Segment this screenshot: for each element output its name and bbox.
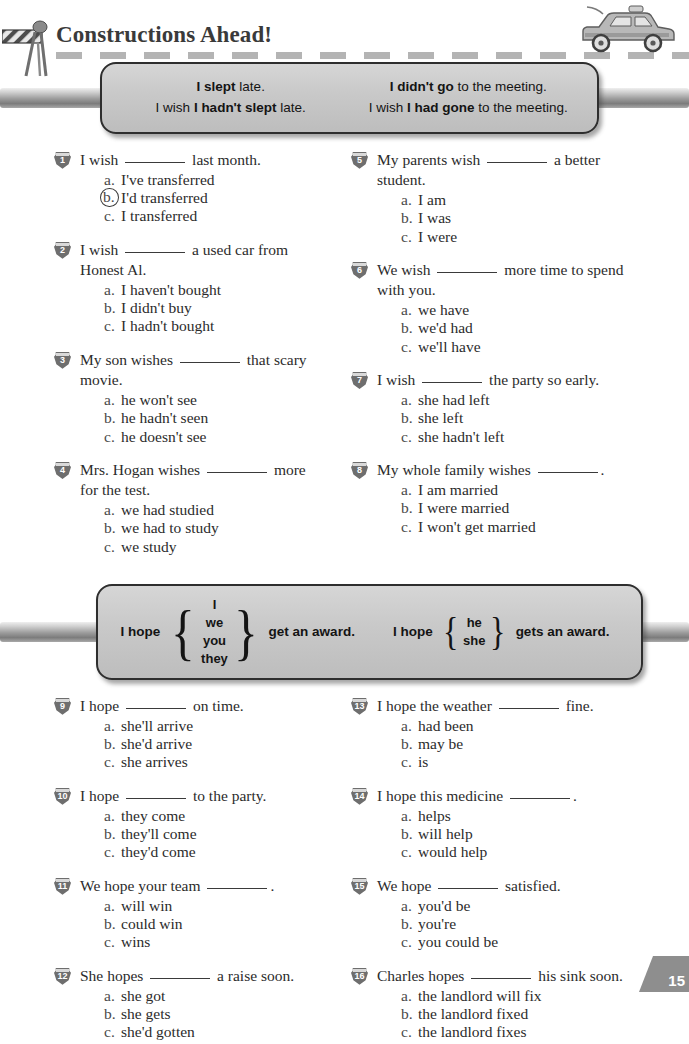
choice-list: a.she gotb.she getsc.she'd gotten (80, 987, 339, 1042)
choice-text: he won't see (121, 391, 197, 408)
choice-text: may be (418, 735, 463, 752)
choice-text: I am (418, 191, 446, 208)
answer-blank[interactable] (207, 472, 267, 473)
choice-list: a.he won't seeb.he hadn't seenc.he doesn… (80, 391, 339, 446)
choice-letter: b. (104, 299, 116, 317)
item-number: 10 (57, 791, 67, 801)
choice-option[interactable]: a.had been (401, 717, 685, 735)
choice-letter: b. (104, 825, 116, 843)
item-number-shield-icon: 10 (54, 788, 71, 805)
choice-option[interactable]: b.she left (401, 409, 685, 427)
choice-option[interactable]: b.will help (401, 825, 685, 843)
answer-blank[interactable] (438, 888, 498, 889)
stem-text-before-blank: I wish (377, 371, 419, 388)
subject-word: we (201, 614, 228, 632)
choice-option[interactable]: a.I've transferred (104, 171, 339, 189)
choice-option[interactable]: b.the landlord fixed (401, 1005, 685, 1023)
choice-option[interactable]: b.she gets (104, 1005, 339, 1023)
choice-option[interactable]: a.she had left (401, 391, 685, 409)
choice-letter: a. (401, 717, 412, 735)
exercise-item: 5My parents wish a betterstudent.a.I amb… (351, 150, 685, 246)
answer-blank[interactable] (150, 978, 210, 979)
choice-option[interactable]: a.helps (401, 807, 685, 825)
choice-letter: c. (104, 933, 115, 951)
answer-blank[interactable] (538, 472, 598, 473)
choice-text: is (418, 753, 428, 770)
choice-option[interactable]: c.I transferred (104, 207, 339, 225)
answer-blank[interactable] (126, 798, 186, 799)
choice-option[interactable]: c.I won't get married (401, 518, 685, 536)
answer-blank[interactable] (422, 382, 482, 383)
stem-text-after-blank: . (601, 461, 605, 478)
choice-option[interactable]: b.I was (401, 209, 685, 227)
exercise-group-wish: 1I wish last month.a.I've transferredb.I… (0, 150, 689, 570)
choice-option[interactable]: c.you could be (401, 933, 685, 951)
stem-text-after-blank: satisfied. (501, 877, 560, 894)
choice-option[interactable]: b.could win (104, 915, 339, 933)
choice-option[interactable]: c.she arrives (104, 753, 339, 771)
choice-option[interactable]: b.we had to study (104, 519, 339, 537)
choice-option[interactable]: c.I hadn't bought (104, 317, 339, 335)
question-stem: My son wishes that scarymovie. (80, 350, 339, 390)
choice-option[interactable]: b.they'll come (104, 825, 339, 843)
choice-option[interactable]: a.you'd be (401, 897, 685, 915)
choice-option[interactable]: b.I didn't buy (104, 299, 339, 317)
choice-list: a.we haveb.we'd hadc.we'll have (377, 301, 685, 356)
item-number-shield-icon: 14 (351, 788, 368, 805)
choice-option[interactable]: a.we had studied (104, 501, 339, 519)
wish-right-l1-bold: I didn't go (390, 79, 454, 94)
choice-option[interactable]: a.she got (104, 987, 339, 1005)
answer-blank[interactable] (125, 252, 185, 253)
choice-list: a.they comeb.they'll comec.they'd come (80, 807, 339, 862)
stem-text-after-blank: fine. (562, 697, 594, 714)
answer-blank[interactable] (126, 708, 186, 709)
choice-option[interactable]: c.we study (104, 538, 339, 556)
item-number-shield-icon: 6 (351, 262, 368, 279)
choice-option[interactable]: c.we'll have (401, 338, 685, 356)
choice-option[interactable]: c.would help (401, 843, 685, 861)
subject-word: I (201, 596, 228, 614)
banner-hope-right: I hope { heshe } gets an award. (370, 614, 634, 650)
answer-blank[interactable] (180, 362, 240, 363)
choice-option[interactable]: c.they'd come (104, 843, 339, 861)
choice-option[interactable]: a.we have (401, 301, 685, 319)
choice-letter: a. (401, 481, 412, 499)
choice-option-selected[interactable]: b.I'd transferred (104, 189, 339, 207)
choice-option[interactable]: b.you're (401, 915, 685, 933)
choice-option[interactable]: c.she'd gotten (104, 1023, 339, 1041)
choice-text: you could be (418, 933, 498, 950)
choice-letter: c. (401, 843, 412, 861)
choice-option[interactable]: b.she'd arrive (104, 735, 339, 753)
answer-blank[interactable] (125, 162, 185, 163)
choice-option[interactable]: c.wins (104, 933, 339, 951)
banner-wish-box: I slept late. I wish I hadn't slept late… (100, 62, 599, 134)
choice-option[interactable]: c.I were (401, 228, 685, 246)
choice-option[interactable]: c.he doesn't see (104, 428, 339, 446)
choice-text: I were (418, 228, 457, 245)
answer-blank[interactable] (487, 162, 547, 163)
item-number-shield-icon: 16 (351, 968, 368, 985)
choice-option[interactable]: a.I am married (401, 481, 685, 499)
choice-option[interactable]: b.we'd had (401, 319, 685, 337)
choice-option[interactable]: a.he won't see (104, 391, 339, 409)
choice-option[interactable]: b.I were married (401, 499, 685, 517)
choice-option[interactable]: c.is (401, 753, 685, 771)
choice-option[interactable]: c.she hadn't left (401, 428, 685, 446)
choice-option[interactable]: b.he hadn't seen (104, 409, 339, 427)
wish-left-l1-bold: I slept (197, 79, 236, 94)
choice-option[interactable]: a.they come (104, 807, 339, 825)
choice-option[interactable]: a.will win (104, 897, 339, 915)
answer-blank[interactable] (207, 888, 267, 889)
item-number-shield-icon: 13 (351, 698, 368, 715)
answer-blank[interactable] (471, 978, 531, 979)
answer-blank[interactable] (437, 272, 497, 273)
answer-blank[interactable] (510, 798, 570, 799)
choice-option[interactable]: a.I haven't bought (104, 281, 339, 299)
answer-blank[interactable] (499, 708, 559, 709)
choice-option[interactable]: c.the landlord fixes (401, 1023, 685, 1041)
choice-text: she hadn't left (418, 428, 504, 445)
choice-option[interactable]: a.I am (401, 191, 685, 209)
choice-option[interactable]: b.may be (401, 735, 685, 753)
item-number: 15 (354, 881, 364, 891)
choice-option[interactable]: a.she'll arrive (104, 717, 339, 735)
